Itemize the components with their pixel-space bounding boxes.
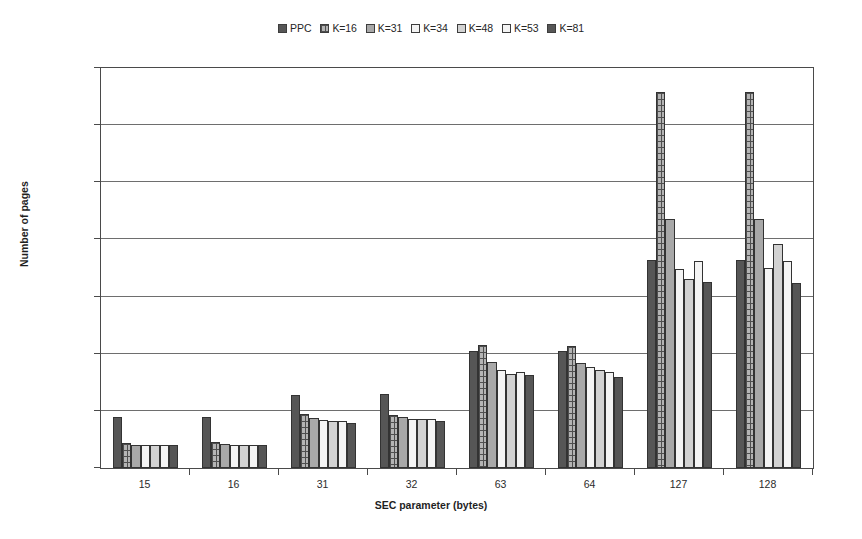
x-axis-tick-mark xyxy=(634,468,635,475)
plot-area xyxy=(100,67,814,469)
legend-label: PPC xyxy=(290,22,311,34)
bar xyxy=(586,367,595,468)
bar xyxy=(150,445,159,468)
bar xyxy=(417,419,426,468)
x-axis-tick-mark xyxy=(278,468,279,475)
bar xyxy=(567,346,576,468)
bar xyxy=(684,279,693,468)
bar xyxy=(558,351,567,468)
x-axis-tick-mark xyxy=(456,468,457,475)
bar xyxy=(389,415,398,468)
bar xyxy=(614,377,623,468)
bar xyxy=(665,219,674,468)
bar xyxy=(487,362,496,468)
bar xyxy=(122,443,131,468)
x-axis-tick-label: 127 xyxy=(670,478,688,490)
bar xyxy=(131,445,140,468)
y-axis-tick-mark xyxy=(94,467,100,468)
x-axis-tick-label: 128 xyxy=(759,478,777,490)
legend-swatch-icon xyxy=(547,24,556,33)
chart-canvas: PPCK=16K=31K=34K=48K=53K=81 Number of pa… xyxy=(0,0,862,539)
bar xyxy=(169,445,178,468)
bar xyxy=(516,372,525,468)
bar xyxy=(160,445,169,468)
bar xyxy=(328,421,337,468)
bar xyxy=(309,418,318,468)
bar xyxy=(525,375,534,468)
bar xyxy=(764,268,773,468)
y-axis-tick-mark xyxy=(94,296,100,297)
chart-legend: PPCK=16K=31K=34K=48K=53K=81 xyxy=(0,22,862,34)
bar xyxy=(202,417,211,468)
x-axis-tick-label: 63 xyxy=(495,478,507,490)
bar xyxy=(647,260,656,468)
bar xyxy=(220,444,229,468)
legend-item-ppc[interactable]: PPC xyxy=(278,22,311,34)
x-axis-tick-label: 31 xyxy=(317,478,329,490)
bar xyxy=(745,92,754,468)
legend-label: K=16 xyxy=(332,22,356,34)
bar xyxy=(436,421,445,468)
x-axis-tick-label: 32 xyxy=(406,478,418,490)
y-axis-title: Number of pages xyxy=(18,181,30,267)
legend-swatch-icon xyxy=(366,24,375,33)
legend-swatch-icon xyxy=(278,24,287,33)
y-axis-tick-mark xyxy=(94,238,100,239)
legend-label: K=34 xyxy=(423,22,447,34)
bar xyxy=(497,370,506,468)
legend-swatch-icon xyxy=(411,24,420,33)
gridline xyxy=(101,238,813,239)
bar xyxy=(792,283,801,468)
bar xyxy=(239,445,248,468)
x-axis-tick-mark xyxy=(723,468,724,475)
bar xyxy=(347,423,356,468)
y-axis-tick-mark xyxy=(94,353,100,354)
x-axis-tick-mark xyxy=(367,468,368,475)
y-axis-tick-mark xyxy=(94,410,100,411)
legend-item-k-16[interactable]: K=16 xyxy=(320,22,356,34)
legend-item-k-34[interactable]: K=34 xyxy=(411,22,447,34)
bar xyxy=(249,445,258,468)
bar xyxy=(736,260,745,468)
bar xyxy=(380,394,389,468)
bar xyxy=(291,395,300,468)
bar xyxy=(398,417,407,468)
bar xyxy=(773,244,782,468)
x-axis-title: SEC parameter (bytes) xyxy=(0,499,862,511)
gridline xyxy=(101,124,813,125)
x-axis-tick-mark xyxy=(545,468,546,475)
bar xyxy=(703,282,712,468)
bar xyxy=(605,372,614,468)
gridline xyxy=(101,181,813,182)
legend-item-k-31[interactable]: K=31 xyxy=(366,22,402,34)
bar xyxy=(576,363,585,468)
bar xyxy=(211,442,220,468)
y-axis-tick-mark xyxy=(94,124,100,125)
legend-swatch-icon xyxy=(502,24,511,33)
x-axis-tick-mark xyxy=(812,468,813,475)
y-axis-tick-mark xyxy=(94,67,100,68)
x-axis-tick-label: 16 xyxy=(228,478,240,490)
legend-item-k-53[interactable]: K=53 xyxy=(502,22,538,34)
bar xyxy=(595,370,604,468)
bar xyxy=(338,421,347,468)
bar xyxy=(319,420,328,468)
legend-item-k-81[interactable]: K=81 xyxy=(547,22,583,34)
bar xyxy=(258,445,267,468)
bar xyxy=(783,261,792,468)
bar xyxy=(113,417,122,468)
legend-item-k-48[interactable]: K=48 xyxy=(457,22,493,34)
bar xyxy=(408,419,417,468)
legend-label: K=53 xyxy=(514,22,538,34)
y-axis-tick-mark xyxy=(94,181,100,182)
bar xyxy=(469,351,478,468)
bar xyxy=(427,419,436,468)
legend-label: K=31 xyxy=(378,22,402,34)
legend-swatch-icon xyxy=(457,24,466,33)
legend-swatch-icon xyxy=(320,24,329,33)
bar xyxy=(300,414,309,468)
bar xyxy=(478,345,487,468)
x-axis-tick-label: 64 xyxy=(584,478,596,490)
bar xyxy=(141,445,150,468)
bar xyxy=(754,219,763,468)
